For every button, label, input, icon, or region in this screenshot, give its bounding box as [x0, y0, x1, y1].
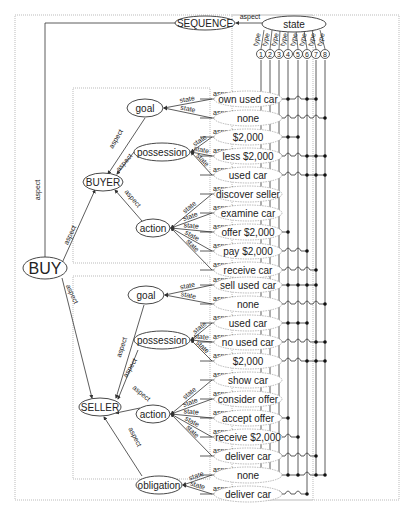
type-number: 8 — [323, 51, 327, 58]
seller-state-label: show car — [228, 375, 269, 386]
state-label: state — [183, 407, 199, 415]
type-dot — [305, 97, 309, 101]
state-label: state — [188, 470, 205, 481]
type-dot — [314, 454, 318, 458]
buyer-state-label: discover seller — [216, 189, 281, 200]
aspect-label: aspect — [123, 188, 142, 209]
type-dot — [286, 230, 290, 234]
type-dot — [305, 283, 309, 287]
buy-label: BUY — [29, 260, 62, 277]
buyer-goal-label: goal — [136, 103, 155, 114]
aspect-label: aspect — [115, 152, 134, 173]
type-dot — [305, 359, 309, 363]
seller-state-label: $2,000 — [233, 356, 264, 367]
state-label: state — [183, 221, 199, 229]
type-dot — [305, 492, 309, 496]
type-dot — [314, 97, 318, 101]
type-dot — [305, 154, 309, 158]
buyer-state-label: own used car — [218, 94, 278, 105]
type-dot — [305, 321, 309, 325]
buyer-state-label: receive car — [224, 265, 274, 276]
seller-state-label: none — [237, 470, 260, 481]
seller-state-label: deliver car — [225, 451, 272, 462]
seller-frame — [73, 276, 210, 479]
type-dot — [323, 473, 327, 477]
buyer-state-label: offer $2,000 — [221, 227, 275, 238]
buyer-state-label: examine car — [221, 208, 276, 219]
seller-possession-label: possession — [137, 335, 187, 346]
seller-state-label: consider offer — [218, 394, 279, 405]
type-dot — [314, 473, 318, 477]
type-number: 4 — [286, 51, 290, 58]
buyer-state-label: $2,000 — [233, 132, 264, 143]
type-dot — [314, 340, 318, 344]
type-dot — [323, 359, 327, 363]
type-dot — [286, 321, 290, 325]
type-dot — [323, 173, 327, 177]
type-dot — [314, 283, 318, 287]
type-dot — [296, 473, 300, 477]
aspect-label: aspect — [34, 180, 42, 201]
buyer-possession-label: possession — [137, 147, 187, 158]
seller-goal-label: goal — [137, 290, 156, 301]
type-dot — [323, 116, 327, 120]
type-number: 7 — [314, 51, 318, 58]
type-dot — [314, 268, 318, 272]
type-number: 3 — [277, 51, 281, 58]
aspect-label: aspect — [115, 336, 129, 358]
buyer-state-label: none — [237, 113, 260, 124]
buy-concept-diagram: aspectaspectaspectaspectaspectaspectaspe… — [0, 0, 410, 527]
seller-obligation-label: obligation — [138, 480, 181, 491]
type-dot — [314, 173, 318, 177]
nodes: state1type2type3type4type5type6type7type… — [23, 13, 330, 502]
sequence-label: SEQUENCE — [177, 18, 233, 29]
type-dot — [286, 97, 290, 101]
type-dot — [296, 321, 300, 325]
buyer-state-label: less $2,000 — [222, 151, 274, 162]
buyer-state-label: used car — [229, 170, 268, 181]
aspect-label: aspect — [62, 224, 78, 246]
aspect-label: aspect — [108, 128, 125, 150]
type-number: 2 — [268, 51, 272, 58]
type-dot — [286, 416, 290, 420]
seller-state-label: receive $2,000 — [215, 432, 281, 443]
seller-state-label: deliver car — [225, 489, 272, 500]
type-label: type — [315, 32, 326, 47]
type-dot — [314, 359, 318, 363]
seller-state-label: no used car — [222, 337, 275, 348]
seller-action-label: action — [140, 409, 167, 420]
type-dot — [286, 135, 290, 139]
type-dot — [323, 154, 327, 158]
type-dot — [296, 135, 300, 139]
type-number: 1 — [259, 51, 263, 58]
type-dot — [286, 473, 290, 477]
seller-state-label: used car — [229, 318, 268, 329]
buyer-state-label: pay $2,000 — [223, 246, 273, 257]
buyer-label: BUYER — [86, 177, 120, 188]
type-dot — [305, 173, 309, 177]
state-top-label: state — [283, 19, 305, 30]
type-dot — [314, 154, 318, 158]
type-dot — [323, 340, 327, 344]
type-number: 6 — [305, 51, 309, 58]
type-dot — [323, 302, 327, 306]
type-dot — [296, 283, 300, 287]
seller-state-label: accept offer — [222, 413, 275, 424]
type-dot — [296, 435, 300, 439]
type-number: 5 — [296, 51, 300, 58]
type-dot — [305, 249, 309, 253]
seller-label: SELLER — [81, 402, 119, 413]
state-label: state — [189, 480, 206, 491]
aspect-label: aspect — [127, 426, 144, 448]
type-dot — [286, 283, 290, 287]
seller-state-label: none — [237, 299, 260, 310]
aspect-label: aspect — [240, 13, 261, 21]
seller-state-label: sell used car — [220, 280, 277, 291]
aspect-label: aspect — [122, 357, 139, 379]
edges — [45, 23, 325, 494]
aspect-label: aspect — [131, 384, 152, 403]
aspect-edge — [62, 190, 95, 263]
buyer-action-label: action — [140, 223, 167, 234]
